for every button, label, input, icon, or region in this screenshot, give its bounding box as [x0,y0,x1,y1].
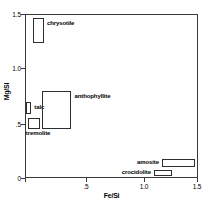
x-tick-label-3: 1.5 [185,183,209,190]
x-tick-mark-3 [197,178,198,182]
data-box-tremolite [28,118,40,129]
x-tick-mark-1 [86,178,87,182]
x-tick-mark-0 [25,178,26,182]
y-tick-label-0: 0 [1,175,21,182]
x-tick-label-1: .5 [74,183,98,190]
series-label-amosite: amosite [0,159,159,166]
series-label-anthophyllite: anthophyllite [74,93,110,100]
series-label-tremolite: tremolite [26,130,50,137]
y-tick-label-3: 1.5 [1,11,21,18]
x-tick-mark-2 [144,178,145,182]
series-label-crocidolite: crocidolite [0,169,151,176]
y-tick-mark-1 [21,124,25,125]
y-tick-mark-2 [21,68,25,69]
x-tick-label-2: 1.0 [132,183,156,190]
data-box-talc [26,102,31,114]
data-box-crocidolite [154,170,172,176]
data-box-amosite [162,159,195,167]
data-box-anthophyllite [42,91,72,130]
x-axis-label: Fe/Si [25,192,198,199]
series-label-chrysotile: chrysotile [47,20,74,27]
y-tick-label-1: .5 [1,121,21,128]
asbestos-mineral-composition-chart: 1.5 1.0 .5 0 .5 1.0 1.5 Mg/Si Fe/Si chry… [0,0,211,211]
y-axis-label: Mg/Si [3,72,10,112]
data-box-chrysotile [33,18,44,43]
y-tick-mark-3 [21,14,25,15]
